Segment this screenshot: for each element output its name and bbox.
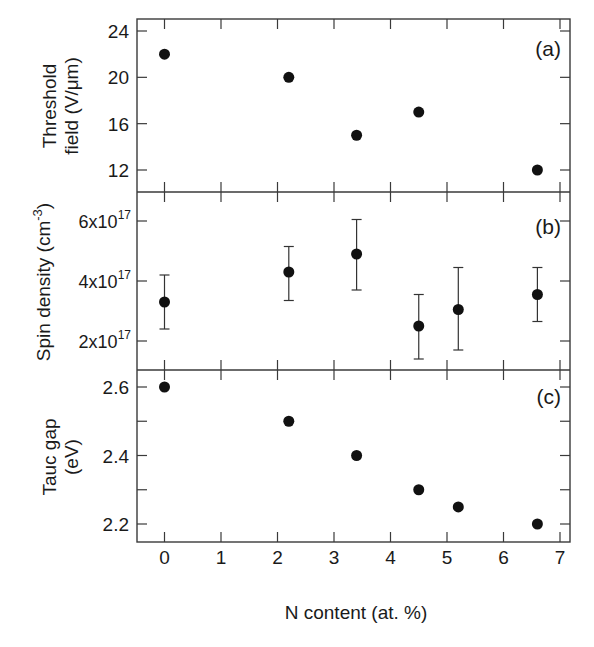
panel-b-ylabel-close: ) [33, 203, 54, 209]
stacked-scatter-figure: 12162024 2x10174x10176x1017 2.22.42.6 01… [0, 0, 594, 647]
data-point [351, 130, 362, 141]
data-point [413, 107, 424, 118]
panel-b-ylabel-main: Spin density (cm [33, 221, 54, 361]
panel-a-ylabel-line2: field (V/μm) [61, 57, 82, 155]
x-tick-label: 1 [216, 547, 227, 568]
shared-x-axis: 01234567 [159, 547, 565, 568]
x-tick-label: 4 [385, 547, 396, 568]
outer-frame [137, 19, 570, 542]
x-tick-label: 6 [498, 547, 509, 568]
plot-frames [137, 19, 570, 542]
data-point [351, 450, 362, 461]
y-tick-label: 24 [108, 21, 130, 42]
panel-b-ylabel-text: Spin density (cm-3) [30, 203, 54, 361]
data-point [532, 519, 543, 530]
y-tick-label: 2.2 [103, 514, 129, 535]
panel-b-spin-density: 2x10174x10176x1017 [79, 192, 570, 370]
y-tick-label: 20 [108, 67, 129, 88]
y-tick-label: 6x1017 [79, 208, 132, 232]
data-point [453, 304, 464, 315]
panel-c-ylabel-line2: (eV) [61, 439, 82, 475]
x-tick-label: 2 [272, 547, 283, 568]
panel-b-ylabel-sup: -3 [30, 209, 45, 221]
x-tick-label: 5 [442, 547, 453, 568]
y-tick-label: 12 [108, 160, 129, 181]
data-point [283, 267, 294, 278]
data-point [453, 501, 464, 512]
y-tick-label: 16 [108, 114, 129, 135]
panel-b-ylabel: Spin density (cm-3) [30, 203, 54, 361]
panel-c-annotation: (c) [537, 385, 562, 408]
data-point [159, 297, 170, 308]
x-tick-label: 0 [159, 547, 170, 568]
data-point [283, 416, 294, 427]
data-point [283, 72, 294, 83]
panel-a-threshold-field: 12162024 [108, 19, 570, 192]
panel-a-ylabel: Threshold field (V/μm) [39, 57, 82, 155]
data-point [532, 165, 543, 176]
y-tick-label: 2.4 [103, 446, 130, 467]
panel-a-annotation: (a) [535, 37, 561, 60]
panel-c-ylabel-line1: Tauc gap [39, 418, 60, 495]
y-tick-label: 4x1017 [79, 268, 132, 292]
panel-c-tauc-gap: 2.22.42.6 [103, 370, 570, 542]
y-tick-label: 2.6 [103, 377, 129, 398]
data-point [532, 289, 543, 300]
x-tick-label: 3 [329, 547, 340, 568]
panel-b-annotation: (b) [535, 215, 561, 238]
x-tick-label: 7 [555, 547, 566, 568]
panel-a-ylabel-line1: Threshold [39, 64, 60, 149]
data-point [413, 321, 424, 332]
data-point [413, 484, 424, 495]
y-tick-label: 2x1017 [79, 328, 132, 352]
x-axis-label: N content (at. %) [285, 602, 428, 623]
data-point [351, 249, 362, 260]
panel-c-ylabel: Tauc gap (eV) [39, 418, 82, 495]
data-point [159, 49, 170, 60]
data-point [159, 382, 170, 393]
